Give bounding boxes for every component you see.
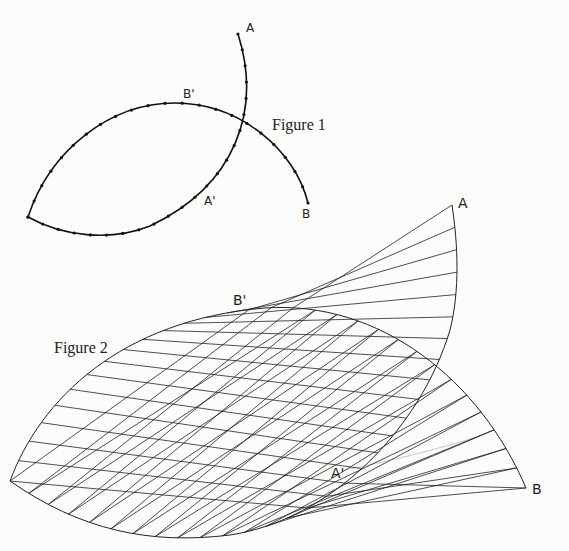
- figure-2-label-a: A: [458, 195, 468, 211]
- chord-line: [271, 227, 455, 307]
- division-mark: [284, 156, 287, 159]
- division-mark: [259, 132, 262, 135]
- division-mark: [105, 233, 108, 236]
- division-mark: [238, 129, 241, 132]
- division-mark: [60, 156, 63, 159]
- division-mark: [85, 133, 88, 136]
- division-mark: [152, 222, 155, 225]
- figure-1-label-b: B: [302, 207, 310, 221]
- division-mark: [245, 122, 248, 125]
- figure-2: A B' A' B Figure 2: [10, 195, 542, 538]
- figure-2-label-a-prime: A': [331, 465, 344, 481]
- division-mark: [33, 199, 36, 202]
- division-mark: [272, 143, 275, 146]
- chord-line: [29, 310, 315, 493]
- division-mark: [72, 231, 75, 234]
- division-mark: [225, 159, 228, 162]
- division-mark: [242, 113, 245, 116]
- division-mark: [205, 184, 208, 187]
- division-mark: [130, 108, 133, 111]
- figure-1-label-a-prime: A': [204, 194, 216, 208]
- division-mark: [72, 144, 75, 147]
- chord-line: [178, 379, 452, 538]
- division-mark: [244, 97, 247, 100]
- figure-2-caption: Figure 2: [54, 339, 108, 357]
- division-mark: [244, 64, 247, 67]
- diagram-canvas: A B' A' B Figure 1 A B' A' B Figure 2: [0, 0, 569, 551]
- division-mark: [193, 196, 196, 199]
- division-mark: [146, 104, 149, 107]
- chord-line: [293, 205, 452, 308]
- chord-line: [227, 272, 457, 313]
- division-mark: [216, 172, 219, 175]
- chord-line: [41, 423, 361, 469]
- chord-line: [111, 340, 398, 529]
- division-mark: [198, 104, 201, 107]
- string-art-diagram: A B' A' B Figure 1 A B' A' B Figure 2: [0, 0, 569, 551]
- chord-line: [69, 321, 359, 514]
- division-mark: [230, 114, 233, 117]
- figure-1-label-a: A: [246, 21, 255, 35]
- chord-line: [155, 340, 398, 537]
- division-mark: [57, 228, 60, 231]
- division-mark: [49, 170, 52, 173]
- chord-line: [245, 395, 467, 532]
- division-mark: [236, 32, 239, 35]
- division-mark: [181, 102, 184, 105]
- division-mark: [99, 123, 102, 126]
- division-mark: [301, 185, 304, 188]
- division-mark: [114, 115, 117, 118]
- chord-line: [345, 483, 526, 488]
- chord-line: [29, 441, 345, 483]
- chord-line: [163, 331, 447, 339]
- division-mark: [214, 108, 217, 111]
- figure-2-chords: [10, 205, 526, 538]
- chord-line: [133, 329, 379, 533]
- division-mark: [241, 48, 244, 51]
- division-mark: [167, 215, 170, 218]
- division-mark: [163, 102, 166, 105]
- chord-line: [184, 317, 453, 323]
- division-mark: [40, 184, 43, 187]
- chord-line: [222, 412, 481, 536]
- chord-line: [287, 468, 516, 518]
- division-mark: [26, 215, 29, 218]
- division-mark: [180, 206, 183, 209]
- figure-2-label-b-prime: B': [233, 292, 246, 308]
- figure-1-label-b-prime: B': [183, 87, 195, 101]
- figure-1-caption: Figure 1: [272, 116, 326, 134]
- figure-2-label-b: B: [532, 481, 542, 497]
- figure-1-arc-b: [28, 103, 308, 217]
- division-mark: [41, 222, 44, 225]
- division-mark: [89, 233, 92, 236]
- figure-1: A B' A' B Figure 1: [26, 21, 325, 237]
- chord-line: [249, 250, 456, 310]
- division-mark: [233, 144, 236, 147]
- chord-line: [266, 412, 481, 526]
- figure-1-division-marks: [26, 32, 309, 236]
- division-mark: [306, 201, 309, 204]
- chord-line: [70, 389, 392, 436]
- chord-line: [10, 310, 249, 481]
- division-mark: [121, 232, 124, 235]
- division-mark: [245, 81, 248, 84]
- division-mark: [293, 170, 296, 173]
- division-mark: [137, 228, 140, 231]
